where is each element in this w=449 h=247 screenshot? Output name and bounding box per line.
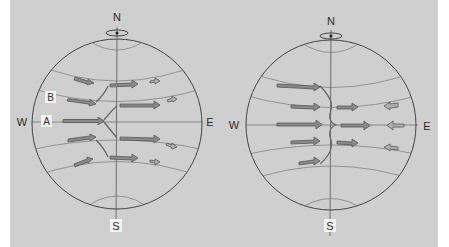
ocean-current-diagram: N W E S A B xyxy=(0,0,449,247)
arrow-B-icon xyxy=(67,99,96,107)
right-globe: N W E S xyxy=(229,15,431,236)
right-north-label: N xyxy=(327,15,335,27)
left-globe: N W E S A B xyxy=(17,11,214,232)
left-west-label: W xyxy=(17,116,28,128)
left-south-label: S xyxy=(112,220,119,232)
left-north-label: N xyxy=(113,11,121,23)
label-A: A xyxy=(43,116,50,127)
label-B: B xyxy=(47,92,54,103)
right-current-arrows xyxy=(277,83,404,165)
right-south-label: S xyxy=(326,220,333,232)
right-east-label: E xyxy=(423,120,430,132)
right-west-label: W xyxy=(229,119,240,131)
left-east-label: E xyxy=(206,116,213,128)
left-axis-line xyxy=(116,27,117,232)
arrow-A-icon xyxy=(63,117,104,125)
